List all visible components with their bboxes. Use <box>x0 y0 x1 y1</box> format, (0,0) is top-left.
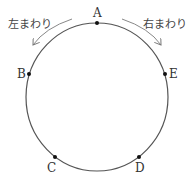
label-c: C <box>47 161 56 175</box>
point-b <box>27 72 31 76</box>
label-d: D <box>135 161 145 175</box>
circle-diagram: 左まわり 右まわり A B C D E <box>0 0 194 186</box>
label-e: E <box>169 67 178 81</box>
circle <box>26 23 168 171</box>
right-rotation-label: 右まわり <box>143 17 187 31</box>
label-a: A <box>92 6 102 20</box>
point-a <box>95 21 99 25</box>
left-rotation-label: 左まわり <box>8 18 52 31</box>
point-e <box>163 72 167 76</box>
point-c <box>53 155 57 159</box>
point-d <box>137 155 141 159</box>
label-b: B <box>17 67 26 81</box>
